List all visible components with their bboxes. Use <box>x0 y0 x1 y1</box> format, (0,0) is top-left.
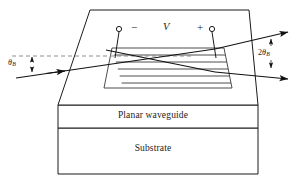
substrate-label: Substrate <box>0 144 306 154</box>
incident-bragg-angle-label: θB <box>8 59 16 68</box>
diffraction-angle-label: 2θB <box>258 49 270 58</box>
plus-terminal-label: + <box>197 22 203 33</box>
planar-waveguide-label: Planar waveguide <box>0 111 306 121</box>
theta-subscript: B <box>12 61 16 67</box>
voltage-label: V <box>163 22 169 33</box>
theta-subscript-2: B <box>266 51 270 57</box>
minus-terminal-label: − <box>131 22 137 33</box>
plus-terminal-node[interactable] <box>209 26 214 31</box>
incident-beam-direction-arrow <box>46 71 65 74</box>
diagram-canvas <box>0 0 306 182</box>
minus-terminal-node[interactable] <box>116 26 121 31</box>
bragg-deflector-figure: − V + θB 2θB Planar waveguide Substrate <box>0 0 306 182</box>
